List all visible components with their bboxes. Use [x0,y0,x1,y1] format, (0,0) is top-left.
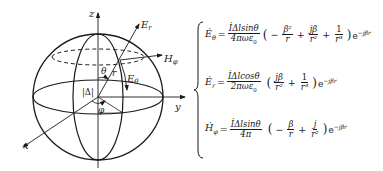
eq1-equals: = [218,29,226,40]
equation-h-phi: Ḣφ = İΔlsinθ 4π ( − βr + jr² ) e−jβr [205,120,347,139]
dipole-label: |Δ| [82,87,94,98]
equation-e-r: Ėr = İΔlcosθ 2πωε0 ( jβr² + 1r³ ) e−jβr [205,72,337,93]
phi-label: φ [98,105,105,115]
equation-brace [193,20,205,160]
eq2-term1: jβr² [274,73,284,92]
x-label: x [23,140,29,151]
eq3-equals: = [220,124,228,135]
r-vector [98,24,139,97]
sphere-diagram: z y x Er Hφ Eθ θ r φ |Δ| [0,0,195,171]
eq1-exponential: e−jβr [352,29,371,41]
eq1-lhs: Ėθ [205,28,216,42]
eq1-term2: jβr² [309,25,319,44]
eq2-term2: 1r³ [300,73,309,92]
eq1-term1: β²r [282,25,292,44]
eq3-coefficient: İΔlsinθ 4π [230,120,262,139]
e-r-label: Er [140,19,152,32]
phi-arc [92,101,105,104]
x-axis [23,97,98,147]
eq2-equals: = [217,77,225,88]
z-label: z [88,8,95,19]
h-phi-label: Hφ [163,53,178,66]
eq3-term2: jr² [310,120,319,139]
r-label: r [112,68,117,78]
h-phi-arrow [120,55,162,60]
y-label: y [174,101,181,112]
eq3-exponential: e−jβr [328,123,347,135]
eq3-term1: βr [287,120,294,139]
theta-label: θ [101,66,107,76]
equations-block: Ėθ = İΔlsinθ 4πωε0 ( − β²r + jβr² + 1r³ … [205,20,383,160]
eq1-term3: 1r³ [334,25,343,44]
equation-e-theta: Ėθ = İΔlsinθ 4πωε0 ( − β²r + jβr² + 1r³ … [205,24,371,45]
eq1-coefficient: İΔlsinθ 4πωε0 [228,24,260,45]
eq2-exponential: e−jβr [318,77,337,89]
e-theta-label: Eθ [126,73,139,86]
eq2-coefficient: İΔlcosθ 2πωε0 [227,72,261,93]
eq2-lhs: Ėr [205,76,215,90]
eq3-lhs: Ḣφ [205,122,218,136]
theta-arc [98,77,108,79]
